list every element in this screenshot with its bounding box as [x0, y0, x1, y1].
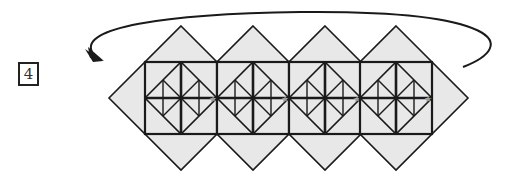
star-icon: ★ [424, 94, 432, 104]
origami-modules-diagram: ★★★★ [0, 0, 507, 181]
modules-group: ★★★★ [109, 26, 468, 170]
star-icon: ★ [209, 94, 217, 104]
star-icon: ★ [281, 94, 289, 104]
